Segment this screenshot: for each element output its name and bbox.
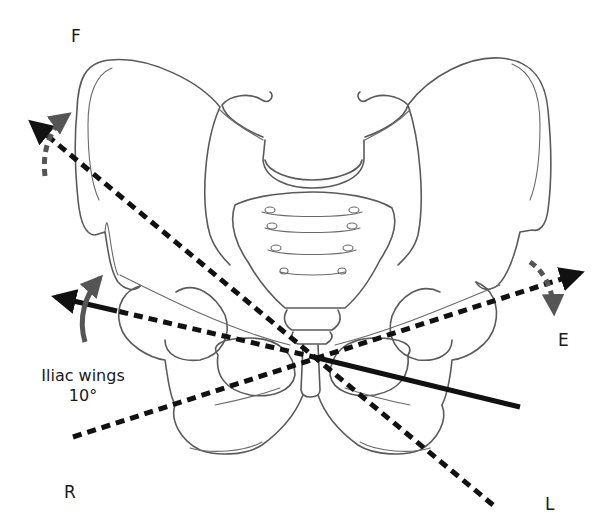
- rotation-arrow-iliac-icon: [82, 278, 100, 342]
- sacrum-s1: [263, 140, 364, 188]
- label-f: F: [71, 28, 81, 45]
- label-l: L: [545, 496, 554, 513]
- label-r: R: [64, 484, 76, 501]
- pelvis-diagram: F E R L Iliac wings 10°: [0, 0, 603, 528]
- left-obturator: [330, 338, 410, 396]
- left-iliac-wing: [398, 58, 551, 289]
- pubic-symphysis: [301, 345, 320, 397]
- rotation-arrow-f-icon: [44, 115, 68, 176]
- annotation-angle: 10°: [28, 386, 138, 406]
- pelvis-illustration: [0, 0, 603, 528]
- sacral-foramina: [262, 207, 362, 275]
- axis-iliac-right-solid: [318, 358, 520, 407]
- sacrum: [233, 192, 395, 308]
- left-ischium: [318, 395, 444, 454]
- label-e: E: [558, 332, 569, 349]
- right-ischium: [174, 395, 303, 454]
- pelvis-bones: [75, 58, 551, 454]
- annotation-title: Iliac wings: [28, 366, 138, 386]
- iliac-wings-annotation: Iliac wings 10°: [28, 366, 138, 406]
- right-iliac-wing: [75, 60, 230, 290]
- right-obturator: [216, 338, 295, 396]
